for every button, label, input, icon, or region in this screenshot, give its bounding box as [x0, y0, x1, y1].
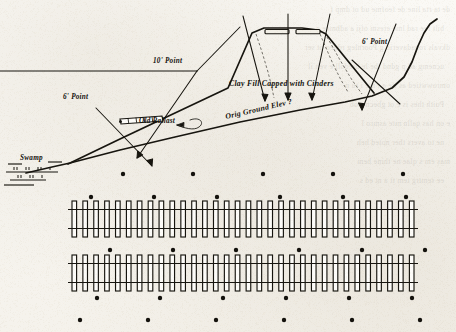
- survey-point: [215, 195, 219, 199]
- plan-view-group: [68, 172, 427, 322]
- crosstie: [344, 255, 349, 291]
- crosstie: [159, 201, 164, 237]
- profile-label-ten-point: 10' Point: [153, 57, 183, 65]
- crosstie: [290, 255, 295, 291]
- survey-point: [360, 248, 364, 252]
- survey-point: [282, 318, 286, 322]
- survey-point: [108, 248, 112, 252]
- leader-ten-point-v: [197, 27, 240, 71]
- crosstie: [279, 201, 284, 237]
- survey-point: [423, 248, 427, 252]
- profile-label-old-ballast: Old Ballast: [139, 117, 176, 125]
- survey-point: [171, 248, 175, 252]
- survey-point: [347, 296, 351, 300]
- survey-point: [410, 296, 414, 300]
- survey-point: [297, 248, 301, 252]
- old-ballast-pointer-arrow: [177, 122, 184, 126]
- arrowhead-ten-point: [137, 151, 143, 158]
- leader-six-point-right: [362, 24, 396, 110]
- crosstie: [388, 201, 393, 237]
- crosstie: [246, 255, 251, 291]
- crest-ballast-section-left: [265, 30, 289, 34]
- crosstie: [322, 201, 327, 237]
- crosstie: [301, 255, 306, 291]
- crosstie: [213, 255, 218, 291]
- survey-point: [284, 296, 288, 300]
- leader-right-cross: [352, 60, 400, 104]
- survey-point-row-above-upper: [89, 195, 408, 199]
- crosstie: [268, 255, 273, 291]
- survey-point: [331, 172, 335, 176]
- crosstie: [137, 255, 142, 291]
- survey-point: [401, 172, 405, 176]
- buried-slope-dashed-left: [256, 34, 274, 98]
- survey-point-row-below-lower: [95, 296, 414, 300]
- crosstie: [72, 255, 77, 291]
- crosstie: [203, 255, 208, 291]
- survey-point-row-top: [121, 172, 405, 176]
- survey-point: [191, 172, 195, 176]
- crosstie: [301, 201, 306, 237]
- crosstie: [224, 201, 229, 237]
- crosstie: [344, 201, 349, 237]
- profile-label-six-point-left: 6' Point: [63, 93, 89, 101]
- survey-point: [89, 195, 93, 199]
- survey-point: [158, 296, 162, 300]
- crosstie: [126, 201, 131, 237]
- survey-point: [152, 195, 156, 199]
- arrowhead-six-point-left: [147, 159, 153, 166]
- survey-point: [278, 195, 282, 199]
- crosstie: [235, 255, 240, 291]
- crosstie: [333, 255, 338, 291]
- crosstie: [279, 255, 284, 291]
- survey-point: [261, 172, 265, 176]
- crosstie: [181, 255, 186, 291]
- leader-ten-point: [137, 71, 197, 158]
- survey-point-row-between: [108, 248, 427, 252]
- crosstie: [148, 201, 153, 237]
- crosstie: [268, 201, 273, 237]
- survey-point: [341, 195, 345, 199]
- engineering-drawing: 6' Point10' PointOld BallastClay Fill Ca…: [0, 0, 456, 332]
- crosstie: [409, 201, 414, 237]
- crosstie: [290, 201, 295, 237]
- crosstie: [213, 201, 218, 237]
- crosstie: [322, 255, 327, 291]
- crosstie: [148, 255, 153, 291]
- crosstie: [126, 255, 131, 291]
- crosstie: [203, 201, 208, 237]
- arrowhead-six-point-right: [359, 103, 365, 110]
- crosstie: [192, 201, 197, 237]
- crosstie: [83, 201, 88, 237]
- embankment-fill-outline: [68, 28, 374, 164]
- crosstie: [116, 255, 121, 291]
- crosstie: [377, 255, 382, 291]
- survey-point: [121, 172, 125, 176]
- crosstie: [377, 201, 382, 237]
- survey-point: [350, 318, 354, 322]
- survey-point-row-bottom: [78, 318, 422, 322]
- crosstie: [235, 201, 240, 237]
- crosstie: [105, 201, 110, 237]
- crosstie: [170, 201, 175, 237]
- crosstie: [409, 255, 414, 291]
- crosstie: [399, 255, 404, 291]
- crosstie: [116, 201, 121, 237]
- crosstie: [83, 255, 88, 291]
- survey-point: [234, 248, 238, 252]
- crosstie: [105, 255, 110, 291]
- crosstie: [311, 255, 316, 291]
- crosstie: [224, 255, 229, 291]
- arrowhead-left: [262, 94, 268, 101]
- crosstie: [366, 201, 371, 237]
- crosstie: [170, 255, 175, 291]
- crosstie: [94, 201, 99, 237]
- crosstie: [159, 255, 164, 291]
- survey-point: [146, 318, 150, 322]
- survey-point: [95, 296, 99, 300]
- swamp-symbol: [4, 162, 62, 185]
- crosstie: [94, 255, 99, 291]
- crosstie: [366, 255, 371, 291]
- crosstie: [257, 255, 262, 291]
- crosstie: [355, 255, 360, 291]
